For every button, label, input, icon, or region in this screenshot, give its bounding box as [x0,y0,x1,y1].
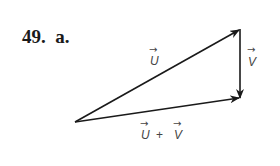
sum-plus-label: + [156,128,163,142]
vector-sum-arrow [75,98,239,122]
vector-diagram: → U → V → U + → V [0,0,280,166]
vector-u-label: U [150,54,159,68]
sum-u-label: U [141,128,150,142]
vector-v-label: V [248,55,257,69]
vector-v-arrow-glyph: → [247,44,255,55]
sum-v-label: V [174,128,183,142]
